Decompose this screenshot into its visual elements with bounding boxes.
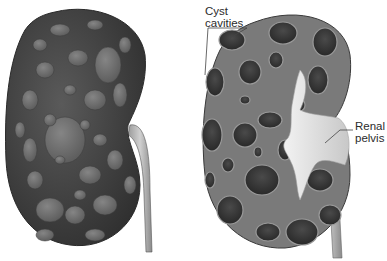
renal-pelvis-label: Renal pelvis xyxy=(355,120,385,144)
sectioned-kidney xyxy=(202,15,351,258)
cyst-cavities-label: Cyst cavities xyxy=(205,5,243,29)
exterior-kidney xyxy=(6,9,152,252)
polycystic-kidney-diagram: Cyst cavities Renal pelvis xyxy=(0,0,387,261)
